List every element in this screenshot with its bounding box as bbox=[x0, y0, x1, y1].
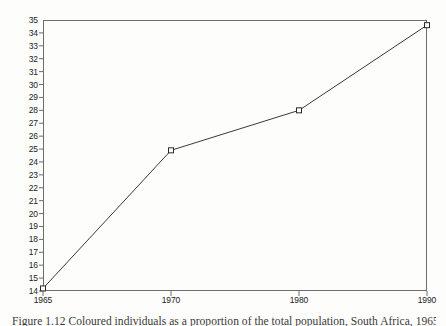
x-axis-label-group: 1965197019801990 bbox=[0, 0, 446, 326]
figure-container: 3534333231302928272625242322212019181716… bbox=[0, 0, 446, 326]
x-axis-tick-label: 1980 bbox=[276, 296, 322, 305]
figure-caption: Figure 1.12 Coloured individuals as a pr… bbox=[12, 315, 436, 326]
x-axis-tick-label: 1970 bbox=[148, 296, 194, 305]
figure-caption-text: Figure 1.12 Coloured individuals as a pr… bbox=[12, 315, 436, 326]
x-axis-tick-label: 1990 bbox=[404, 296, 446, 305]
x-axis-tick-label: 1965 bbox=[20, 296, 66, 305]
